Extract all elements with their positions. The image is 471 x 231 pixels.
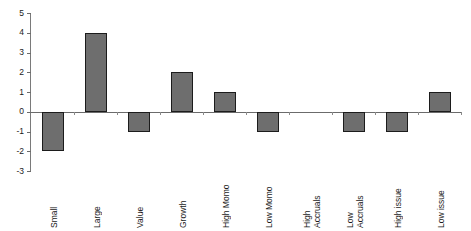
x-tick-mark — [418, 112, 419, 115]
x-tick-mark — [375, 112, 376, 115]
x-tick-mark — [203, 112, 204, 115]
bar — [171, 72, 193, 112]
x-tick-mark — [246, 112, 247, 115]
x-tick-mark — [117, 112, 118, 115]
bar-chart: 543210-1-2-3 SmallLargeValueGrowthHigh M… — [0, 0, 471, 231]
x-axis-tick-label: High Accruals — [302, 172, 322, 228]
y-tick-label: 5 — [8, 9, 24, 18]
y-tick-label: 4 — [8, 28, 24, 37]
bar — [257, 112, 279, 132]
x-tick-mark — [332, 112, 333, 115]
y-tick-label: -3 — [8, 167, 24, 176]
x-axis-labels: SmallLargeValueGrowthHigh MomoLow MomoHi… — [31, 172, 461, 231]
bar — [85, 33, 107, 112]
x-axis-tick-label: High issue — [393, 172, 403, 228]
x-tick-mark — [74, 112, 75, 115]
y-tick-label: -1 — [8, 127, 24, 136]
x-tick-mark — [289, 112, 290, 115]
bar — [128, 112, 150, 132]
x-axis-tick-label: Growth — [178, 172, 188, 228]
y-tick-label: 2 — [8, 68, 24, 77]
y-tick-label: -2 — [8, 147, 24, 156]
x-axis-tick-label: Small — [49, 172, 59, 228]
bar — [386, 112, 408, 132]
bar — [343, 112, 365, 132]
bar — [429, 92, 451, 112]
x-axis-tick-label: Low Accruals — [345, 172, 365, 228]
bar — [42, 112, 64, 152]
x-tick-mark — [461, 112, 462, 115]
y-tick-label: 3 — [8, 48, 24, 57]
plot-area — [31, 13, 461, 171]
x-axis-tick-label: Low Momo — [264, 172, 274, 228]
x-tick-mark — [160, 112, 161, 115]
x-axis-tick-label: Value — [135, 172, 145, 228]
x-axis-tick-label: High Momo — [221, 172, 231, 228]
y-tick-label: 1 — [8, 88, 24, 97]
bar — [214, 92, 236, 112]
x-axis-tick-label: Large — [92, 172, 102, 228]
x-axis-tick-label: Low issue — [436, 172, 446, 228]
y-tick-label: 0 — [8, 107, 24, 116]
